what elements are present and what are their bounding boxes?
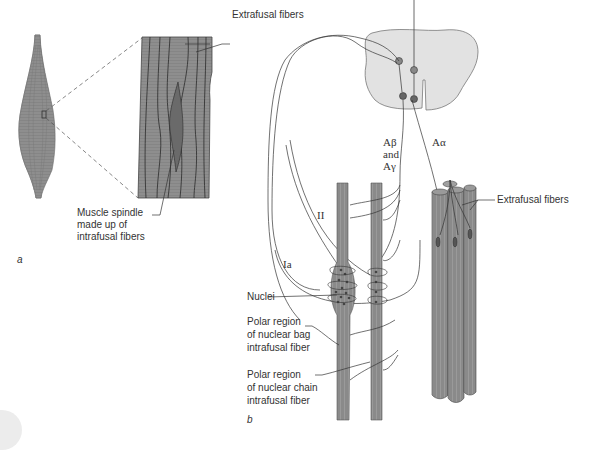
a-alpha-label: Aα (432, 136, 446, 148)
polar-chain-label-line3: intrafusal fiber (247, 395, 310, 407)
nuclear-chain-fiber (368, 183, 387, 420)
spinal-cord-icon (365, 29, 478, 110)
extrafusal-fibers-label-b: Extrafusal fibers (497, 194, 569, 206)
panel-a (19, 35, 230, 215)
group-ii-label: II (317, 209, 324, 221)
spindle-label-line2: made up of (77, 219, 127, 231)
polar-bag-label-line2: of nuclear bag (247, 329, 310, 341)
group-ia-label: Ia (283, 258, 292, 270)
nuclei-label: Nuclei (247, 291, 275, 303)
panel-b-label: b (247, 414, 253, 426)
polar-bag-label-line1: Polar region (247, 316, 301, 328)
nuclear-bag-fiber (328, 183, 357, 420)
and-label: and (383, 148, 399, 160)
polar-chain-label-line1: Polar region (247, 369, 301, 381)
spindle-label-line1: Muscle spindle (77, 207, 143, 219)
a-beta-label: Aβ (383, 136, 397, 148)
panel-a-label: a (17, 254, 23, 266)
polar-bag-label-line3: intrafusal fiber (247, 342, 310, 354)
polar-chain-label-line2: of nuclear chain (247, 382, 318, 394)
extrafusal-fiber-bundle (432, 180, 495, 403)
panel-b (268, 0, 495, 420)
extrafusal-fibers-label-a: Extrafusal fibers (232, 9, 304, 21)
a-gamma-label: Aγ (383, 160, 396, 172)
spindle-label-line3: intrafusal fibers (77, 231, 145, 243)
